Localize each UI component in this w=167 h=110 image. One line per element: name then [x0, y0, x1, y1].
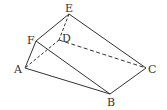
vertex-label-F: F [27, 34, 35, 47]
edge-EC [69, 14, 146, 68]
edge-CB [110, 68, 146, 94]
vertex-label-A: A [13, 63, 23, 76]
edge-FB [36, 41, 110, 94]
edge-DC-hidden [59, 40, 146, 68]
vertex-label-C: C [148, 63, 156, 76]
diagram-canvas: E F D A C B [0, 0, 167, 110]
vertex-label-B: B [107, 96, 115, 109]
geometry-diagram: E F D A C B [0, 0, 167, 110]
edge-AB [25, 68, 110, 94]
vertex-label-D: D [62, 32, 71, 45]
vertex-label-E: E [65, 2, 73, 15]
